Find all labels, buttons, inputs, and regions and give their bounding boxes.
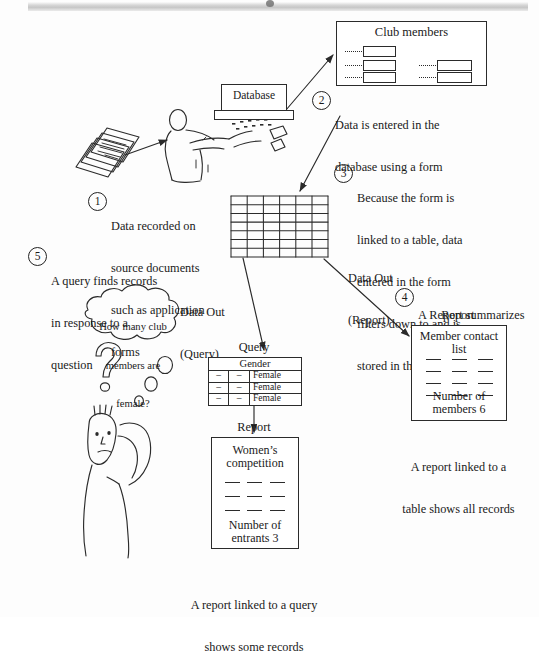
- report-dash: [247, 510, 262, 511]
- callout-number-2: 2: [312, 91, 331, 110]
- report-dash: [426, 383, 441, 384]
- report-dash: [270, 496, 285, 497]
- data-out-report-label: Data Out (Report): [348, 243, 393, 355]
- arrow-docs-to-person: [125, 140, 167, 155]
- report-dash: [478, 383, 493, 384]
- report-dash: [247, 482, 262, 483]
- report-left-caption-note: A report linked to a query shows some re…: [154, 570, 354, 655]
- report-left-footer-line: entrants 3: [212, 532, 298, 545]
- query-cell: –: [209, 382, 229, 394]
- form-field-row: [419, 60, 472, 71]
- report-right-footer: Number of members 6: [412, 390, 506, 417]
- query-cell: Female: [250, 393, 301, 405]
- query-cell: –: [209, 370, 229, 382]
- report-right-caption: Report: [411, 308, 505, 323]
- query-cell: –: [229, 393, 250, 405]
- query-result-table: Gender – – Female – – Female – – Female: [208, 357, 302, 406]
- form-field-leader: [419, 77, 436, 78]
- form-field-row: [345, 46, 396, 57]
- report-left-footer: Number of entrants 3: [212, 519, 298, 546]
- callout-1-line: Data recorded on: [111, 219, 205, 233]
- thought-line: How many club: [92, 321, 174, 334]
- report-left-title-line: competition: [212, 457, 298, 470]
- callout-number-4: 4: [395, 288, 414, 307]
- thought-line: female?: [92, 398, 174, 411]
- callout-2-line: Data is entered in the: [335, 118, 443, 132]
- caption-line: A report linked to a query: [154, 598, 354, 612]
- report-dash: [478, 359, 493, 360]
- report-right-caption-note: A report linked to a table shows all rec…: [386, 432, 531, 544]
- report-dash: [426, 359, 441, 360]
- form-field-box: [363, 60, 396, 71]
- arrow-form-to-table: [300, 116, 340, 191]
- form-field-row: [345, 60, 396, 71]
- query-cell: –: [229, 370, 250, 382]
- data-out-report-line: (Report): [348, 313, 393, 327]
- form-field-box: [363, 46, 396, 57]
- report-dash-row: [412, 359, 506, 360]
- report-right-title-line: Member contact: [412, 330, 506, 343]
- database-table-grid: [231, 196, 328, 257]
- source-documents-icon: [76, 128, 139, 177]
- thought-bubble-text: How many club members are female?: [92, 296, 174, 436]
- callout-number-1: 1: [88, 192, 107, 211]
- query-cell: –: [209, 393, 229, 405]
- report-dash: [452, 359, 467, 360]
- report-dash: [225, 496, 240, 497]
- report-dash-row: [412, 383, 506, 384]
- form-title: Club members: [337, 25, 486, 40]
- monitor-base: [214, 110, 294, 120]
- query-caption: Query: [208, 340, 300, 355]
- form-field-box: [363, 72, 396, 83]
- report-right-title-line: list: [412, 343, 506, 356]
- report-dash: [478, 371, 493, 372]
- thought-line: members are: [92, 360, 174, 373]
- report-dash: [270, 482, 285, 483]
- callout-3-line: Because the form is: [357, 191, 463, 205]
- club-members-form: Club members: [336, 21, 487, 86]
- callout-number-5: 5: [28, 247, 47, 266]
- report-dash: [247, 496, 262, 497]
- report-right-title: Member contact list: [412, 330, 506, 357]
- report-dash-row: [212, 496, 298, 497]
- report-left-title-line: Women’s: [212, 444, 298, 457]
- caption-line: table shows all records: [386, 502, 531, 516]
- report-dash-row: [212, 482, 298, 483]
- monitor-label: Database: [222, 89, 286, 101]
- data-out-query-line: Data Out: [180, 305, 225, 319]
- form-field-leader: [345, 65, 362, 66]
- report-dash: [270, 510, 285, 511]
- report-dash-row: [212, 510, 298, 511]
- report-left-caption: Report: [211, 420, 297, 435]
- query-cell: –: [229, 382, 250, 394]
- form-field-row: [419, 72, 472, 83]
- arrow-table-to-query: [243, 258, 264, 350]
- report-dash: [225, 510, 240, 511]
- report-right-footer-line: members 6: [412, 403, 506, 416]
- report-dash: [452, 383, 467, 384]
- callout-5-line: A query finds records: [51, 274, 157, 288]
- form-field-leader: [345, 51, 362, 52]
- caption-line: A report linked to a: [386, 460, 531, 474]
- query-cell: Female: [250, 370, 301, 382]
- query-cell: Female: [250, 382, 301, 394]
- report-dash-row: [412, 371, 506, 372]
- report-left-title: Women’s competition: [212, 444, 298, 471]
- report-right-footer-line: Number of: [412, 390, 506, 403]
- report-dash: [225, 482, 240, 483]
- form-field-box: [437, 72, 472, 83]
- table-row: – – Female: [209, 393, 301, 405]
- person-at-computer-icon: [165, 110, 287, 183]
- form-field-leader: [419, 65, 436, 66]
- report-left-footer-line: Number of: [212, 519, 298, 532]
- form-field-row: [345, 72, 396, 83]
- report-left-box: Women’s competition Number of entrants 3: [211, 437, 299, 549]
- form-field-leader: [345, 77, 362, 78]
- callout-number-3: 3: [334, 164, 353, 183]
- form-field-box: [437, 60, 472, 71]
- report-dash: [426, 371, 441, 372]
- data-out-report-line: Data Out: [348, 271, 393, 285]
- report-dash: [452, 371, 467, 372]
- database-monitor: Database: [221, 84, 287, 112]
